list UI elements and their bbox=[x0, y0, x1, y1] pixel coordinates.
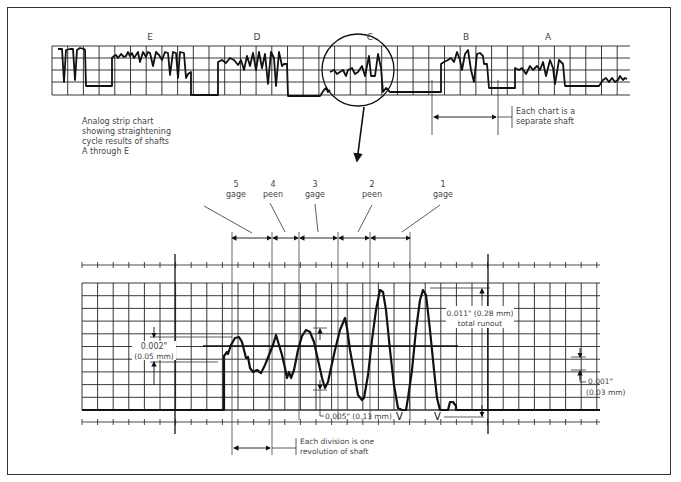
right-dim-inch: 0.001" bbox=[588, 377, 613, 386]
svg-text:peen: peen bbox=[263, 190, 283, 199]
separate-shaft-note-2: separate shaft bbox=[516, 117, 574, 126]
separate-shaft-note-1: Each chart is a bbox=[516, 107, 575, 116]
svg-text:Analog strip chart: Analog strip chart bbox=[82, 117, 153, 126]
left-dim-mm: (0.05 mm) bbox=[134, 352, 174, 361]
svg-text:4: 4 bbox=[270, 180, 275, 189]
svg-text:peen: peen bbox=[362, 190, 382, 199]
svg-text:3: 3 bbox=[312, 180, 317, 189]
shaft-label-c: C bbox=[367, 32, 373, 42]
shaft-label-b: B bbox=[463, 32, 469, 42]
svg-text:gage: gage bbox=[226, 190, 246, 199]
valley-mark-icon: V bbox=[434, 411, 441, 422]
svg-text:5: 5 bbox=[233, 180, 238, 189]
svg-text:gage: gage bbox=[305, 190, 325, 199]
shaft-label-a: A bbox=[545, 32, 552, 42]
strip-caption: Analog strip chart showing straightening… bbox=[82, 117, 171, 156]
svg-text:A through E: A through E bbox=[82, 147, 129, 156]
stage-labels: 5 gage 4 peen 3 gage 2 peen 1 gage bbox=[204, 180, 453, 238]
shaft-label-d: D bbox=[254, 32, 261, 42]
total-runout-label: total runout bbox=[458, 319, 502, 328]
mid-dim-label: 0.005" (0.13 mm) bbox=[325, 412, 392, 421]
top-strip-chart: E D C B A Each chart is a separate shaft… bbox=[52, 32, 630, 161]
division-note-1: Each division is one bbox=[300, 437, 374, 446]
shaft-label-e: E bbox=[147, 32, 153, 42]
left-dim-inch: 0.002" bbox=[141, 342, 168, 351]
detail-strip-chart: V V 0.002" (0.05 mm) 0.005" (0.13 mm) 0.… bbox=[82, 232, 626, 456]
svg-text:showing straightening: showing straightening bbox=[82, 127, 171, 136]
callout-arrow-icon bbox=[357, 107, 364, 161]
valley-mark-icon: V bbox=[396, 411, 403, 422]
svg-text:cycle results of shafts: cycle results of shafts bbox=[82, 137, 169, 146]
svg-text:gage: gage bbox=[433, 190, 453, 199]
svg-text:1: 1 bbox=[440, 180, 445, 189]
right-dim-mm: (0.03 mm) bbox=[586, 388, 626, 397]
total-runout-value: 0.011" (0.28 mm) bbox=[447, 309, 514, 318]
straightening-diagram: E D C B A Each chart is a separate shaft… bbox=[0, 0, 681, 482]
division-note-2: revolution of shaft bbox=[300, 447, 369, 456]
svg-text:2: 2 bbox=[369, 180, 374, 189]
